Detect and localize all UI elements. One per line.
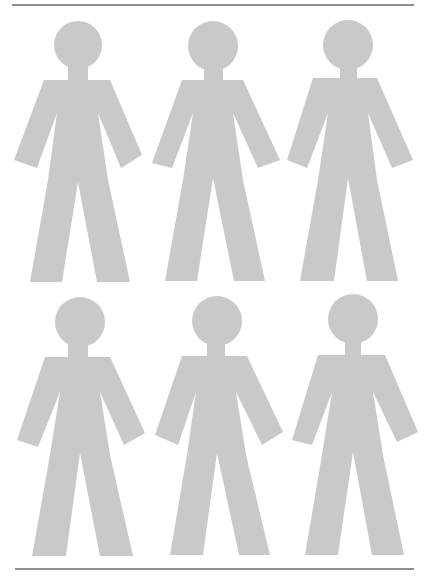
person-icon — [17, 297, 145, 556]
person-body-shape — [287, 78, 413, 281]
person-icon — [287, 20, 413, 281]
person-figures — [14, 20, 418, 556]
person-icon — [292, 294, 418, 555]
person-head-shape — [328, 294, 378, 344]
person-body-shape — [17, 357, 145, 556]
figure-grid-canvas — [0, 0, 436, 579]
person-body-shape — [155, 356, 283, 555]
person-head-shape — [323, 20, 373, 70]
person-body-shape — [14, 80, 142, 282]
person-icon — [155, 296, 283, 555]
person-icon — [14, 21, 142, 282]
person-icon — [152, 21, 280, 281]
person-head-shape — [54, 21, 102, 69]
person-body-shape — [292, 355, 418, 555]
person-head-shape — [188, 21, 238, 71]
person-head-shape — [192, 296, 242, 346]
person-body-shape — [152, 80, 280, 281]
person-head-shape — [55, 297, 105, 347]
